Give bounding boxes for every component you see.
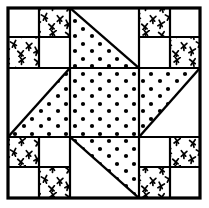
patch-tl-cross [139,8,170,37]
patch-tr-cross [39,8,70,37]
patch-br-cross [170,37,200,68]
patch-tl-plain [8,8,39,37]
patch-tr-plain [39,137,70,167]
patch-tr-plain [170,8,200,37]
edge-bottom-center [70,137,139,198]
patch-tl-plain [139,137,170,167]
corner-top-left [8,8,70,68]
patch-tl-cross [8,137,39,167]
patch-bl-cross [139,167,170,198]
patch-br-plain [170,167,200,198]
corner-bottom-right [139,137,200,198]
edge-middle-right [139,68,200,137]
center-square-dot-fill [70,68,139,137]
center-square [70,68,139,137]
quilt-svg-canvas [0,0,209,208]
edge-top-center [70,8,139,68]
patch-br-plain [39,37,70,68]
patch-bl-plain [8,167,39,198]
edge-middle-left [8,68,70,137]
patch-tr-cross [170,137,200,167]
patch-bl-plain [139,37,170,68]
corner-bottom-left [8,137,70,198]
patch-bl-cross [8,37,39,68]
patch-br-cross [39,167,70,198]
quilt-block-diagram [0,0,209,208]
corner-top-right [139,8,200,68]
